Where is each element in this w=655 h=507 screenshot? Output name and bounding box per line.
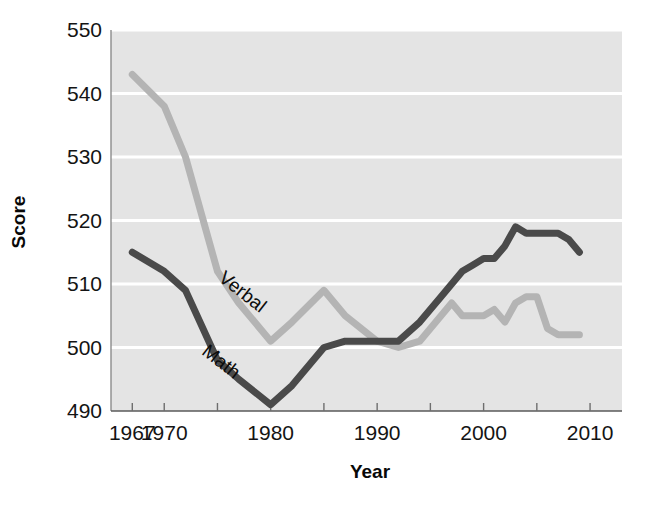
x-tick-label-2000: 2000 [460,421,507,444]
x-tick-label-1970: 1970 [141,421,188,444]
sat-score-trend-figure: 490500510520530540550 196719701980199020… [0,0,655,507]
x-tick-label-1990: 1990 [354,421,401,444]
y-axis-tick-labels: 490500510520530540550 [67,18,102,422]
y-tick-label-550: 550 [67,18,102,41]
x-tick-label-2010: 2010 [567,421,614,444]
x-tick-label-1980: 1980 [247,421,294,444]
y-tick-label-510: 510 [67,272,102,295]
y-axis-title: Score [8,196,29,249]
x-axis-title: Year [350,461,391,482]
y-tick-label-520: 520 [67,209,102,232]
line-chart: 490500510520530540550 196719701980199020… [0,0,655,507]
y-tick-label-490: 490 [67,399,102,422]
y-tick-label-530: 530 [67,145,102,168]
y-tick-label-540: 540 [67,82,102,105]
y-tick-label-500: 500 [67,336,102,359]
x-axis-tick-labels: 196719701980199020002010 [109,421,613,444]
